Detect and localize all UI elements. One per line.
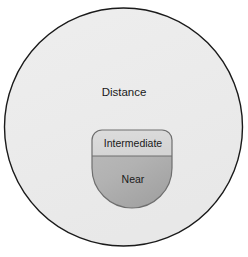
- zone-label-near: Near: [122, 173, 145, 185]
- zone-distance-shape: [5, 8, 243, 246]
- vision-zones-diagram: Distance Intermediate Near: [0, 0, 248, 257]
- zone-label-distance: Distance: [102, 86, 147, 98]
- diagram-canvas: Distance Intermediate Near: [0, 0, 248, 257]
- zone-label-intermediate: Intermediate: [104, 137, 163, 149]
